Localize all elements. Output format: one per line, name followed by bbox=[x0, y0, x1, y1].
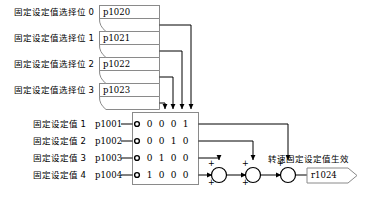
setpoint-input-wires bbox=[121, 124, 133, 175]
adder-3-circle bbox=[281, 168, 296, 183]
selector-routing-wires bbox=[160, 25, 192, 109]
matrix-cell-r4c1: 1 bbox=[145, 171, 154, 180]
selector-bit-0-param[interactable]: p1020 bbox=[103, 8, 130, 17]
selector-bit-1-label: 固定设定值选择位 1 bbox=[4, 34, 94, 43]
setpoint-4-param[interactable]: p1004 bbox=[95, 171, 122, 180]
setpoint-3-param[interactable]: p1003 bbox=[95, 154, 122, 163]
matrix-cell-r1c4: 1 bbox=[181, 120, 190, 129]
adder-1-plus-top: + bbox=[208, 160, 215, 168]
selector-bit-0-label: 固定设定值选择位 0 bbox=[4, 8, 94, 17]
setpoint-2-label: 固定设定值 2 bbox=[24, 137, 86, 146]
matrix-cell-r1c2: 0 bbox=[157, 120, 166, 129]
output-param[interactable]: r1024 bbox=[311, 171, 337, 180]
setpoint-4-label: 固定设定值 4 bbox=[24, 171, 86, 180]
adder-circles bbox=[212, 168, 296, 183]
matrix-cell-r2c3: 1 bbox=[169, 137, 178, 146]
output-label: 转速固定设定值生效 bbox=[268, 155, 349, 164]
diagram-canvas bbox=[0, 0, 366, 198]
matrix-cell-r2c4: 0 bbox=[181, 137, 190, 146]
matrix-cell-r3c2: 1 bbox=[157, 154, 166, 163]
matrix-cell-r4c4: 0 bbox=[181, 171, 190, 180]
selector-bit-2-label: 固定设定值选择位 2 bbox=[4, 60, 94, 69]
selector-bit-2-param[interactable]: p1022 bbox=[103, 60, 130, 69]
matrix-cell-r1c3: 0 bbox=[169, 120, 178, 129]
adder-2-plus-top: + bbox=[242, 160, 249, 168]
matrix-cell-r4c3: 0 bbox=[169, 171, 178, 180]
selector-bit-3-param[interactable]: p1023 bbox=[103, 86, 130, 95]
matrix-cell-r3c4: 0 bbox=[181, 154, 190, 163]
matrix-cell-r2c1: 0 bbox=[145, 137, 154, 146]
setpoint-1-param[interactable]: p1001 bbox=[95, 120, 122, 129]
selector-bit-3-label: 固定设定值选择位 3 bbox=[4, 86, 94, 95]
selector-bit-1-param[interactable]: p1021 bbox=[103, 34, 130, 43]
adder-2-plus-bottom: + bbox=[242, 179, 249, 187]
adder-1-plus-bottom: + bbox=[208, 179, 215, 187]
matrix-cell-r2c2: 0 bbox=[157, 137, 166, 146]
matrix-cell-r4c2: 0 bbox=[157, 171, 166, 180]
setpoint-2-param[interactable]: p1002 bbox=[95, 137, 122, 146]
fixed-setpoint-selection-diagram: 固定设定值选择位 0 固定设定值选择位 1 固定设定值选择位 2 固定设定值选择… bbox=[0, 0, 366, 198]
setpoint-3-label: 固定设定值 3 bbox=[24, 154, 86, 163]
setpoint-1-label: 固定设定值 1 bbox=[24, 120, 86, 129]
matrix-cell-r1c1: 0 bbox=[145, 120, 154, 129]
matrix-cell-r3c1: 0 bbox=[145, 154, 154, 163]
matrix-cell-r3c3: 0 bbox=[169, 154, 178, 163]
